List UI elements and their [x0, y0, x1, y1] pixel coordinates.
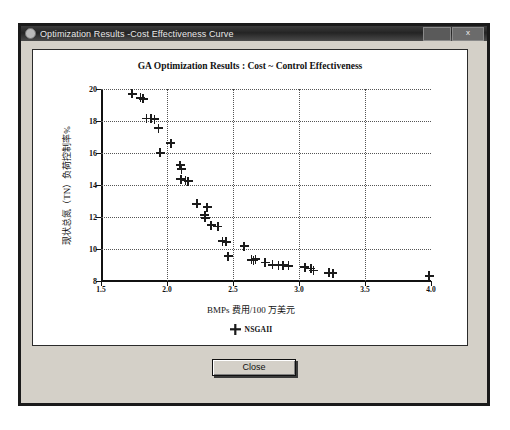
data-point — [425, 271, 434, 280]
data-point — [150, 115, 159, 124]
x-axis-tick-label: 1.5 — [96, 285, 105, 294]
data-point — [222, 237, 231, 246]
x-axis-tick-label: 2.5 — [228, 285, 237, 294]
y-axis-tick-label: 14 — [89, 181, 97, 190]
close-button[interactable]: Close — [212, 359, 296, 376]
gridline-vertical — [233, 89, 234, 281]
gridline-horizontal — [101, 249, 431, 250]
y-axis-title: 现状总氮（TN）负荷控制率% — [59, 89, 73, 281]
data-point — [139, 94, 148, 103]
minimize-button[interactable] — [423, 27, 451, 41]
window-body: GA Optimization Results : Cost ~ Control… — [21, 41, 487, 403]
x-axis-tick-label: 3.0 — [294, 285, 303, 294]
app-icon — [25, 28, 36, 39]
x-axis-tick-label: 4.0 — [426, 285, 435, 294]
gridline-vertical — [167, 89, 168, 281]
gridline-vertical — [299, 89, 300, 281]
y-axis-tick-label: 16 — [89, 149, 97, 158]
x-axis-tick-label: 2.0 — [162, 285, 171, 294]
x-axis-tick-label: 3.5 — [360, 285, 369, 294]
optimization-results-window: Optimization Results -Cost Effectiveness… — [18, 23, 490, 406]
window-title: Optimization Results -Cost Effectiveness… — [40, 29, 423, 39]
plot-area: 81012141618201.52.02.53.03.54.0 — [101, 89, 431, 281]
data-point — [284, 261, 293, 270]
gridline-horizontal — [101, 217, 431, 218]
chart-panel: GA Optimization Results : Cost ~ Control… — [32, 49, 468, 346]
window-controls: x — [423, 27, 485, 41]
plus-marker-icon — [230, 324, 241, 335]
data-point — [328, 269, 337, 278]
data-point — [184, 177, 193, 186]
data-point — [156, 148, 165, 157]
data-point — [177, 165, 186, 174]
button-row: Close — [21, 359, 487, 376]
window-titlebar[interactable]: Optimization Results -Cost Effectiveness… — [21, 26, 487, 41]
y-axis-tick-label: 10 — [89, 245, 97, 254]
data-point — [166, 139, 175, 148]
chart-legend: NSGAII — [33, 324, 469, 335]
y-axis-tick-label: 12 — [89, 213, 97, 222]
data-point — [309, 266, 318, 275]
y-axis-tick-label: 20 — [89, 85, 97, 94]
desktop-background: Optimization Results -Cost Effectiveness… — [0, 0, 510, 430]
data-point — [251, 255, 260, 264]
gridline-horizontal — [101, 153, 431, 154]
data-point — [213, 222, 222, 231]
gridline-vertical — [365, 89, 366, 281]
plot-wrapper: 现状总氮（TN）负荷控制率% 81012141618201.52.02.53.0… — [33, 50, 469, 347]
data-point — [192, 199, 201, 208]
y-axis-title-text: 现状总氮（TN）负荷控制率% — [60, 126, 73, 245]
gridline-horizontal — [101, 185, 431, 186]
data-point — [154, 124, 163, 133]
gridline-horizontal — [101, 89, 431, 90]
y-axis-tick-label: 18 — [89, 117, 97, 126]
legend-label-nsgaii: NSGAII — [245, 325, 273, 334]
x-axis-title: BMPs 费用/100 万美元 — [33, 303, 469, 316]
data-point — [240, 242, 249, 251]
close-window-button[interactable]: x — [452, 27, 484, 41]
data-point — [224, 252, 233, 261]
